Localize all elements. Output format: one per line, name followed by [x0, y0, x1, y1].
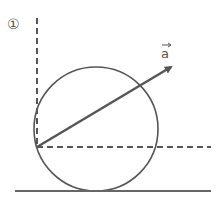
vector-label-text: a: [161, 46, 169, 61]
figure-marker: ①: [7, 16, 20, 32]
vector-a-arrow: [37, 67, 171, 147]
vector-a-label: a: [161, 43, 171, 61]
vector-circle-diagram: ① a: [0, 0, 222, 199]
